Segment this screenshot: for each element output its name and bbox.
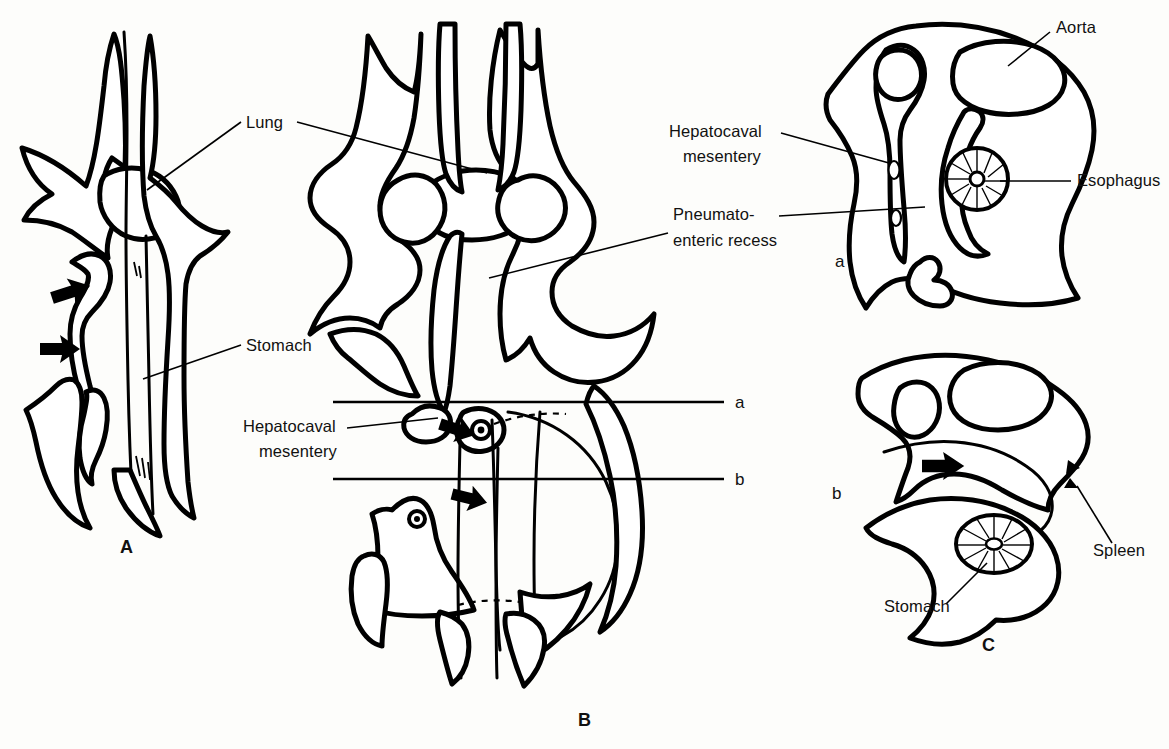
section-plane-lines (333, 402, 724, 479)
panel-b-drawing (310, 24, 654, 686)
panel-letter-b: B (578, 710, 591, 730)
section-b-lower-field (866, 499, 1059, 645)
label-hepatocaval-mesentery-panel-b-line2: mesentery (259, 442, 338, 460)
arrow-panel-b-lower-icon (449, 481, 490, 515)
label-stomach-panel-c: Stomach (884, 597, 950, 615)
panel-a-lower-fold (79, 390, 107, 484)
label-pneumatoenteric-recess-line2: enteric recess (673, 231, 777, 249)
anatomical-figure-root: Lung Stomach Hepatocaval mesentery Hepat… (0, 0, 1169, 749)
panel-b-tube-right (496, 448, 498, 678)
panel-b-pneumatoenteric-recess (431, 232, 462, 412)
section-b-aorta (950, 363, 1052, 431)
label-pneumatoenteric-recess-line1: Pneumato- (673, 205, 755, 223)
label-stomach-panel-a: Stomach (246, 336, 312, 354)
leader-spleen (1077, 486, 1112, 543)
section-b-left-cavity (894, 382, 940, 437)
panel-b-bottom-right-tail (505, 613, 545, 686)
figure-canvas: Lung Stomach Hepatocaval mesentery Hepat… (0, 0, 1169, 749)
panel-b-bottom-left-tail (437, 612, 468, 684)
section-a-hepatocaval-bulb (876, 50, 922, 100)
section-a-aorta (953, 41, 1065, 114)
section-b-letter: b (832, 484, 841, 503)
label-esophagus: Esophagus (1077, 171, 1160, 189)
label-hepatocaval-mesentery-panel-b-line1: Hepatocaval (243, 417, 336, 435)
label-hepatocaval-mesentery-panel-c-line2: mesentery (683, 147, 762, 165)
section-plane-b-letter: b (735, 470, 744, 489)
panel-b-left-descending-band (330, 330, 418, 397)
panel-b-right-descending-band (586, 386, 643, 632)
label-aorta: Aorta (1056, 18, 1097, 36)
panel-b-vein-core-a (478, 427, 485, 434)
panel-letter-c: C (982, 635, 995, 655)
section-a-esophagus-lumen (970, 172, 984, 186)
panel-b-vein-core-b (414, 516, 420, 522)
leader-lung-left (147, 122, 241, 190)
panel-letter-a: A (120, 537, 133, 557)
section-a-vessel-2 (891, 210, 901, 226)
panel-a-stomach-wall (124, 32, 133, 514)
leader-stomach-a (143, 345, 241, 379)
section-a-vessel-1 (889, 161, 900, 179)
section-plane-a-letter: a (735, 393, 745, 412)
section-b-stomach-lumen (986, 539, 1002, 550)
panel-b-left-lung-lumen (380, 175, 445, 243)
label-spleen: Spleen (1093, 541, 1145, 559)
panel-b-liver-lobe-lower (351, 554, 387, 646)
panel-b-trachea-left (438, 24, 462, 192)
section-a-letter: a (835, 252, 845, 271)
panel-a-drawing (22, 32, 228, 536)
panel-a-right-mesenchyme (143, 36, 229, 518)
label-hepatocaval-mesentery-panel-c-line1: Hepatocaval (669, 122, 762, 140)
panel-c-section-a-drawing (826, 25, 1094, 309)
label-lung: Lung (246, 113, 283, 131)
